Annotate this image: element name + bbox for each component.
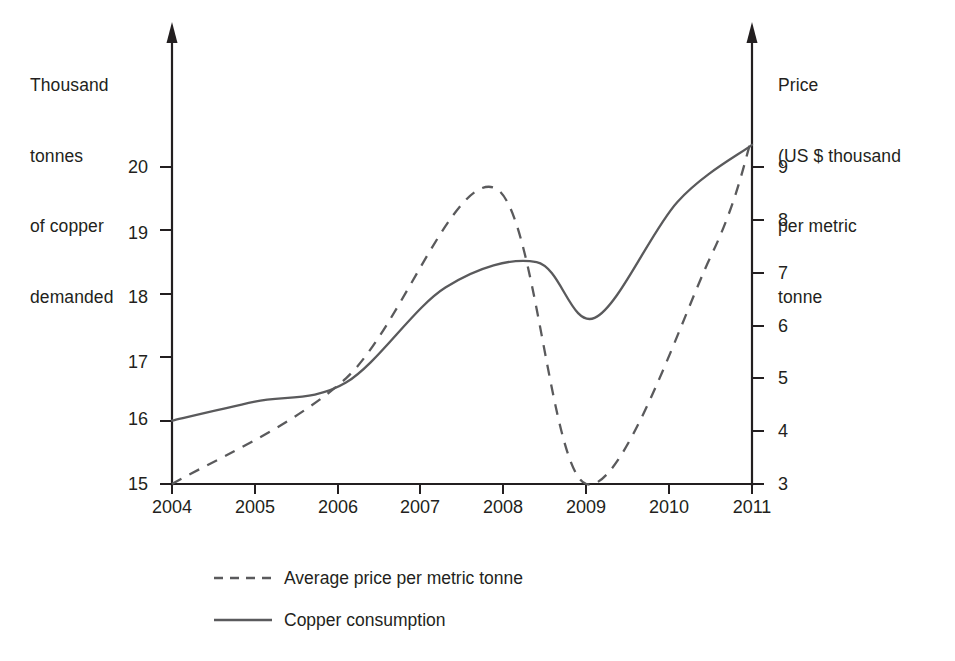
series-line-copper-consumption <box>172 145 752 421</box>
y-axis-left-ticks <box>160 167 172 484</box>
x-axis-ticks <box>172 484 752 494</box>
plot-area <box>0 0 955 661</box>
y-axis-right <box>747 22 758 486</box>
series-line-average-price <box>172 138 752 485</box>
chart-figure: Thousand tonnes of copper demanded Price… <box>0 0 955 661</box>
y-axis-right-ticks <box>752 167 764 484</box>
legend-label-average-price: Average price per metric tonne <box>284 568 523 588</box>
y-axis-left <box>167 22 178 486</box>
legend-label-copper-consumption: Copper consumption <box>284 610 445 630</box>
